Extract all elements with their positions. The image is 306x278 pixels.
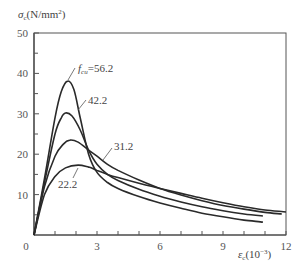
y-tick-label: 20	[17, 148, 29, 160]
x-tick-label: 6	[157, 240, 163, 252]
label-leader-line	[68, 68, 75, 80]
stress-strain-chart: 1020304050036912 fcu=56.242.231.222.2 σc…	[0, 0, 306, 278]
curve-label: 42.2	[88, 94, 107, 106]
y-axis-title: σc(N/mm2)	[18, 8, 66, 22]
y-tick-label: 10	[17, 189, 29, 201]
curve-22.2	[34, 165, 286, 235]
x-tick-label: 12	[281, 240, 292, 252]
plot-frame	[34, 33, 286, 235]
x-axis-title: εc(10−3)	[238, 248, 272, 262]
x-tick-label: 9	[220, 240, 226, 252]
label-leader-line	[73, 168, 78, 178]
label-leader-line	[103, 148, 112, 160]
curve-label: 22.2	[58, 178, 77, 190]
plot-border	[34, 33, 286, 235]
curve-label: fcu=56.2	[78, 62, 113, 76]
axis-ticks: 1020304050036912	[17, 27, 292, 252]
y-tick-label: 30	[17, 108, 29, 120]
curve-label: 31.2	[114, 140, 133, 152]
y-tick-label: 40	[17, 67, 29, 79]
curve-42.2	[34, 113, 263, 235]
label-leader-line	[78, 100, 86, 110]
y-tick-label: 50	[17, 27, 29, 39]
x-tick-label: 3	[94, 240, 100, 252]
data-curves	[34, 81, 286, 235]
origin-label: 0	[23, 240, 29, 252]
